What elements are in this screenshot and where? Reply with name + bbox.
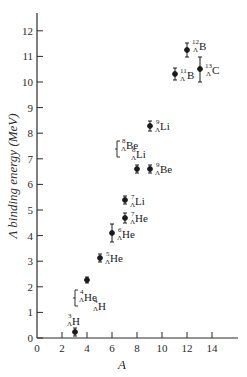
label-li9: 9 Λ Li bbox=[155, 118, 170, 134]
point-a8 bbox=[135, 165, 140, 173]
point-he6 bbox=[110, 224, 115, 242]
svg-text:10: 10 bbox=[22, 76, 34, 88]
svg-text:14: 14 bbox=[207, 342, 219, 354]
label-he7: 7 Λ He bbox=[130, 210, 148, 226]
svg-text:H: H bbox=[72, 315, 80, 327]
svg-text:4: 4 bbox=[84, 342, 90, 354]
svg-text:8: 8 bbox=[134, 342, 140, 354]
x-axis-title: A bbox=[117, 357, 126, 372]
label-b12: 12 Λ B bbox=[192, 38, 206, 54]
svg-text:11: 11 bbox=[22, 50, 33, 62]
label-h4: 4 Λ H bbox=[93, 297, 106, 313]
label-b11: 11 Λ B bbox=[180, 67, 194, 83]
svg-text:Λ: Λ bbox=[206, 70, 211, 78]
svg-text:B: B bbox=[187, 69, 194, 81]
bracket-a8 bbox=[115, 141, 120, 157]
svg-text:7: 7 bbox=[28, 153, 34, 165]
svg-text:4: 4 bbox=[28, 230, 34, 242]
y-ticks bbox=[37, 31, 43, 338]
bracket-a4 bbox=[73, 290, 78, 306]
y-axis-title: Λ binding energy (MeV) bbox=[5, 113, 20, 240]
point-b11 bbox=[173, 68, 178, 80]
svg-text:2: 2 bbox=[59, 342, 65, 354]
binding-energy-chart: 0 1 2 3 4 5 6 7 8 9 10 11 12 0 2 4 6 8 1… bbox=[0, 0, 247, 377]
point-he5 bbox=[98, 254, 103, 262]
y-tick-labels: 0 1 2 3 4 5 6 7 8 9 10 11 12 bbox=[22, 25, 34, 344]
point-li9 bbox=[148, 121, 153, 131]
label-li7: 7 Λ Li bbox=[130, 193, 145, 209]
point-a4 bbox=[85, 277, 90, 283]
label-h3: 3 Λ H bbox=[67, 312, 80, 328]
svg-text:H: H bbox=[98, 300, 106, 312]
svg-text:Li: Li bbox=[160, 120, 170, 132]
isotope-labels: 3 Λ H 4 Λ He 4 Λ H 5 Λ He 6 Λ He 7 bbox=[67, 38, 219, 328]
label-he5: 5 Λ He bbox=[105, 250, 123, 266]
svg-text:Be: Be bbox=[160, 163, 172, 175]
svg-text:10: 10 bbox=[157, 342, 169, 354]
label-be9: 9 Λ Be bbox=[155, 161, 172, 177]
svg-text:0: 0 bbox=[28, 332, 34, 344]
svg-text:He: He bbox=[135, 212, 148, 224]
point-he7 bbox=[123, 213, 128, 223]
svg-text:C: C bbox=[212, 64, 219, 76]
point-c13 bbox=[198, 57, 203, 82]
label-li8: 8 Λ Li bbox=[131, 146, 146, 162]
svg-text:9: 9 bbox=[28, 102, 34, 114]
svg-text:Λ: Λ bbox=[180, 75, 185, 83]
svg-text:6: 6 bbox=[28, 178, 34, 190]
svg-text:Li: Li bbox=[136, 148, 146, 160]
svg-text:0: 0 bbox=[34, 342, 40, 354]
x-ticks bbox=[62, 332, 212, 338]
label-c13: 13 Λ C bbox=[205, 62, 219, 78]
svg-text:8: 8 bbox=[28, 127, 34, 139]
svg-text:Li: Li bbox=[135, 195, 145, 207]
point-be9 bbox=[148, 165, 153, 173]
svg-text:Λ: Λ bbox=[193, 46, 198, 54]
svg-text:12: 12 bbox=[22, 25, 33, 37]
svg-text:1: 1 bbox=[28, 306, 34, 318]
svg-text:B: B bbox=[199, 40, 206, 52]
x-tick-labels: 0 2 4 6 8 10 12 14 bbox=[34, 342, 218, 354]
point-b12 bbox=[185, 43, 190, 57]
svg-text:5: 5 bbox=[28, 204, 34, 216]
svg-text:3: 3 bbox=[28, 255, 34, 267]
point-li7 bbox=[123, 196, 128, 204]
label-he6: 6 Λ He bbox=[117, 226, 135, 242]
svg-text:He: He bbox=[110, 252, 123, 264]
point-h3 bbox=[73, 328, 78, 336]
svg-text:6: 6 bbox=[109, 342, 115, 354]
svg-text:12: 12 bbox=[182, 342, 193, 354]
svg-text:He: He bbox=[122, 228, 135, 240]
svg-text:2: 2 bbox=[28, 281, 34, 293]
